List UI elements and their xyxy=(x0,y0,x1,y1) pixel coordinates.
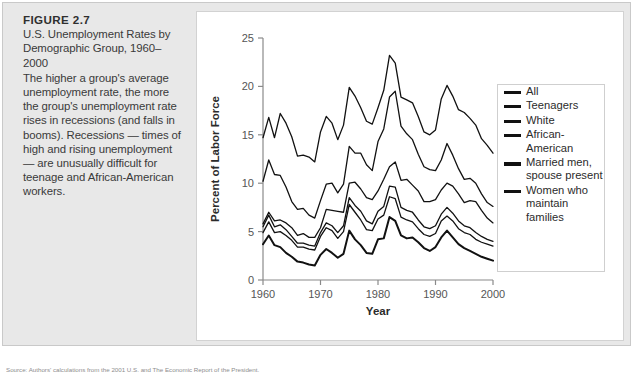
y-tick-label: 25 xyxy=(242,32,254,44)
legend-item-label: Married men, spouse present xyxy=(526,156,604,183)
y-tick-label: 10 xyxy=(242,177,254,189)
figure-caption: FIGURE 2.7 U.S. Unemployment Rates by De… xyxy=(23,13,181,199)
source-note: Source: Authors' calculations from the 2… xyxy=(6,366,626,373)
series-line-0 xyxy=(263,186,493,246)
x-tick-label: 2000 xyxy=(481,288,505,300)
series-line-4 xyxy=(263,217,493,265)
legend-item[interactable]: Teenagers xyxy=(504,99,604,112)
legend-item-label: Teenagers xyxy=(526,99,578,112)
figure-description: The higher a group's average unemploymen… xyxy=(23,71,181,199)
y-axis-title: Percent of Labor Force xyxy=(209,96,221,222)
x-tick-label: 1970 xyxy=(308,288,332,300)
legend-item-label: White xyxy=(526,114,555,127)
legend-item-label: All xyxy=(526,85,538,98)
y-tick-label: 5 xyxy=(248,226,254,238)
figure-panel: FIGURE 2.7 U.S. Unemployment Rates by De… xyxy=(2,2,631,346)
legend-line-swatch-icon xyxy=(504,162,521,166)
y-tick-label: 20 xyxy=(242,80,254,92)
figure-label: FIGURE 2.7 xyxy=(23,13,181,27)
legend-item[interactable]: White xyxy=(504,114,604,127)
legend-item[interactable]: African-American xyxy=(504,128,604,155)
legend-item[interactable]: All xyxy=(504,85,604,98)
legend-line-swatch-icon xyxy=(504,105,521,108)
legend-line-swatch-icon xyxy=(504,134,521,137)
chart-legend: AllTeenagersWhiteAfrican-AmericanMarried… xyxy=(497,84,605,272)
chart-series-group xyxy=(263,55,493,265)
legend-item-label: African-American xyxy=(526,128,604,155)
y-tick-label: 15 xyxy=(242,129,254,141)
x-tick-group: 19601970198019902000 xyxy=(251,280,505,300)
legend-item-label: Women who maintain families xyxy=(526,184,604,224)
legend-line-swatch-icon xyxy=(504,190,521,193)
x-tick-label: 1980 xyxy=(366,288,390,300)
series-line-5 xyxy=(263,162,493,238)
legend-item[interactable]: Women who maintain families xyxy=(504,184,604,224)
legend-line-swatch-icon xyxy=(504,120,521,123)
legend-item[interactable]: Married men, spouse present xyxy=(504,156,604,183)
y-tick-label: 0 xyxy=(248,274,254,286)
x-tick-label: 1960 xyxy=(251,288,275,300)
legend-line-swatch-icon xyxy=(504,91,521,94)
x-tick-label: 1990 xyxy=(423,288,447,300)
y-tick-group: 0510152025 xyxy=(242,32,263,286)
figure-title: U.S. Unemployment Rates by Demographic G… xyxy=(23,27,181,70)
series-line-1 xyxy=(263,55,493,161)
x-axis-title: Year xyxy=(366,305,391,317)
chart-container: 0510152025 19601970198019902000 Year Per… xyxy=(196,11,624,341)
